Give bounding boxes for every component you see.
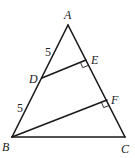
geometry-diagram: A B C D E F 5 5 (0, 0, 135, 158)
label-b: B (2, 140, 10, 154)
label-c: C (121, 142, 130, 156)
length-db: 5 (17, 101, 23, 115)
side-ab (12, 25, 68, 137)
side-ac (68, 25, 125, 137)
length-ad: 5 (45, 45, 51, 59)
label-f: F (110, 93, 119, 107)
label-a: A (63, 8, 72, 22)
label-e: E (90, 53, 99, 67)
label-d: D (28, 72, 38, 86)
segment-bf (12, 100, 107, 137)
